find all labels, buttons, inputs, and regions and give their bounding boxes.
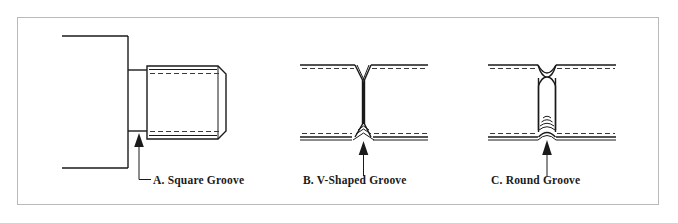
- panel-a-caption: A. Square Groove: [153, 174, 244, 187]
- panel-c-right-shaft: [556, 65, 616, 140]
- panel-a-leader-line: [139, 175, 151, 180]
- groove-left-wall: [355, 65, 363, 137]
- panel-c-caption: C. Round Groove: [491, 174, 580, 186]
- panel-c-groove-walls: [538, 65, 556, 140]
- groove-bottom-radius: [539, 133, 556, 138]
- panel-a-groove-land: [128, 70, 147, 131]
- leader-elbow: [139, 175, 151, 180]
- panel-b-groove-walls: [353, 65, 374, 140]
- groove-bottom-arc-4: [539, 127, 555, 130]
- panel-b-right-shaft: [371, 65, 428, 140]
- panel-c-callout-arrow: [542, 140, 552, 176]
- panel-a-cylinder: [147, 66, 226, 139]
- arrow-head: [359, 141, 369, 155]
- panel-a-workpiece-body: [62, 36, 128, 168]
- panel-a-callout-arrow: [134, 133, 144, 175]
- groove-bottom-arc-2: [542, 120, 553, 122]
- panel-b-left-shaft: [300, 65, 355, 140]
- groove-bottom-radius-outer: [538, 136, 556, 141]
- groove-bottom-arc-3: [540, 123, 554, 126]
- panel-b-callout-arrow: [359, 141, 369, 176]
- groove-right-wall: [365, 65, 372, 137]
- panel-b-caption: B. V-Shaped Groove: [303, 174, 407, 187]
- panel-c-round-groove: C. Round Groove: [488, 65, 616, 186]
- arrow-head: [134, 133, 144, 147]
- cylinder-outline: [147, 66, 226, 139]
- groove-bottom-arc-1: [543, 116, 551, 118]
- arrow-head: [542, 140, 552, 155]
- panel-a-square-groove: A. Square Groove: [62, 36, 244, 187]
- panel-c-left-shaft: [488, 65, 538, 140]
- panel-b-v-shaped-groove: B. V-Shaped Groove: [300, 65, 428, 187]
- technical-drawing-canvas: A. Square Groove: [0, 0, 678, 223]
- figure-root: A. Square Groove: [0, 0, 678, 223]
